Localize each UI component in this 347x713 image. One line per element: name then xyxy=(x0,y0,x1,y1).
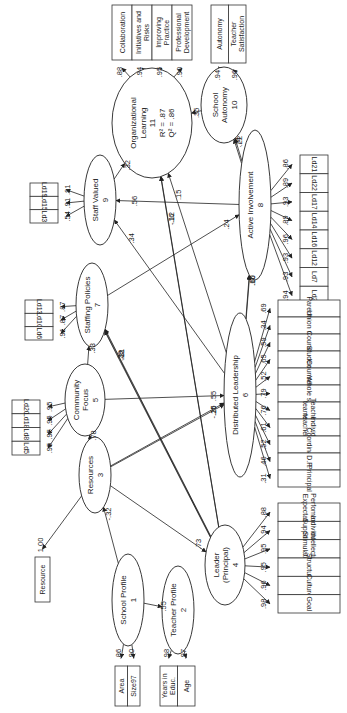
indicator-label: Ld3 xyxy=(41,210,48,222)
indicator-label: ImprovingPractice xyxy=(155,17,170,48)
path-coefficient: -.32 xyxy=(104,507,113,520)
loading-value: .34 xyxy=(259,320,268,330)
indicator-group: Ld21Ld22Ld17Ld14Ld16Ld12Ld7Ld2 xyxy=(300,155,328,305)
loading-value: .79 xyxy=(259,388,268,398)
path-arrow xyxy=(110,486,206,552)
loading-value: .95 xyxy=(259,544,268,554)
path-coefficient: .55 xyxy=(209,391,218,401)
path-coefficient: -.16 xyxy=(209,406,218,419)
latent-staff-valued: Staff Valued9 xyxy=(84,155,116,245)
latent-school-profile: School Profile1 xyxy=(112,554,144,646)
loading-value: .52 xyxy=(259,371,268,381)
indicator-label: Ld18 xyxy=(23,413,30,429)
indicator-group: CollaborationInitiatives andRisksImprovi… xyxy=(112,5,192,60)
indicator-label: Ld15 xyxy=(41,195,48,211)
loading-value: .95 xyxy=(259,562,268,572)
latent-staffing-policies: Staffing Policies7 xyxy=(76,263,108,347)
latent-school-autonomy: SchoolAutonomy10 xyxy=(201,67,247,143)
loading-value: .59 xyxy=(259,337,268,347)
loading-arrow xyxy=(255,427,270,478)
indicator-label: Ld8 xyxy=(23,429,30,441)
loading-value: .94 xyxy=(213,70,222,80)
indicator-group: Ld13Ld10Ld6 xyxy=(25,299,53,340)
path-arrow xyxy=(105,396,224,400)
indicator-label: Ld17 xyxy=(311,194,318,210)
loading-value: .89 xyxy=(281,178,290,188)
indicator-group: Years inEduc.Age xyxy=(160,666,195,706)
path-coefficient: .24 xyxy=(222,219,231,229)
loading-value: .91 xyxy=(63,184,72,194)
indicator-label: Age xyxy=(183,680,191,693)
path-coefficient: .16 xyxy=(248,276,257,286)
loading-value: .87 xyxy=(58,301,67,311)
indicator-group: PerfomanceExpectationIndividualSupportIn… xyxy=(278,493,340,613)
loading-value: .61 xyxy=(259,422,268,432)
path-coefficient: .73 xyxy=(194,539,203,549)
loading-value: .87 xyxy=(58,315,67,325)
path-coefficient: .35 xyxy=(192,108,201,118)
loading-value: .31 xyxy=(259,473,268,483)
loading-value: .97 xyxy=(179,649,188,659)
path-arrow xyxy=(161,177,219,527)
indicator-label: ProfessionalDevelopment xyxy=(175,12,191,53)
loading-value: .98 xyxy=(259,599,268,609)
loading-value: .91 xyxy=(63,198,72,208)
path-coefficient: .78 xyxy=(89,430,98,440)
loading-arrow xyxy=(255,309,270,362)
loading-value: .95 xyxy=(45,443,54,453)
indicator-label: Ld22 xyxy=(311,175,318,191)
loading-value: .93 xyxy=(281,272,290,282)
loading-value: .91 xyxy=(58,328,67,338)
loading-value: .89 xyxy=(281,215,290,225)
indicator-label: Years inEduc. xyxy=(161,673,176,698)
loading-value: .98 xyxy=(162,649,171,659)
latent-resources: Resources3 xyxy=(79,437,111,513)
indicator-group: Resource xyxy=(35,557,50,602)
indicator-label: Culture xyxy=(306,574,313,597)
indicator-label: Resource xyxy=(39,564,46,594)
loading-value: .94 xyxy=(281,290,290,300)
indicator-label: Goal xyxy=(306,596,313,611)
loading-value: .93 xyxy=(281,253,290,263)
loading-value: .86 xyxy=(114,649,123,659)
indicator-label: Collaboration xyxy=(119,12,126,53)
indicator-label: Size97 xyxy=(130,675,137,697)
latent-leader-principal: Leader(Principal)4 xyxy=(205,525,245,605)
indicator-label: Ld5 xyxy=(23,442,30,454)
indicator-label: Ld16 xyxy=(311,232,318,248)
loading-value: .94 xyxy=(135,67,144,77)
indicator-label: Principal xyxy=(305,465,313,492)
loading-value: .54 xyxy=(63,211,72,221)
loading-value: .96 xyxy=(281,234,290,244)
latent-active-involvement: Active Involvement8 xyxy=(239,130,271,280)
loading-value: .95 xyxy=(155,67,164,77)
indicator-label: Ld7 xyxy=(311,271,318,283)
loading-value: .76 xyxy=(259,405,268,415)
indicator-group: AutonomyTeacherSatisfaction xyxy=(211,5,246,63)
loading-value: .96 xyxy=(259,580,268,590)
loading-value: .86 xyxy=(281,159,290,169)
path-coefficient: .55 xyxy=(159,601,168,611)
path-coefficient: .16 xyxy=(167,214,176,224)
indicator-label: Autonomy xyxy=(216,18,224,50)
loading-value: .88 xyxy=(115,67,124,77)
loading-value: .95 xyxy=(45,402,54,412)
indicator-label: Ld21 xyxy=(311,157,318,173)
indicator-label: Area xyxy=(118,679,125,694)
loading-value: 1.00 xyxy=(36,538,45,553)
loading-value: .90 xyxy=(127,649,136,659)
loading-arrow xyxy=(43,496,82,549)
loading-value: .94 xyxy=(259,525,268,535)
path-coefficient: .74 xyxy=(234,137,243,147)
loading-value: .46 xyxy=(259,456,268,466)
latent-community-focus: CommunityFocus5 xyxy=(65,364,105,436)
loading-value: .52 xyxy=(259,439,268,449)
loading-value: .88 xyxy=(259,507,268,517)
path-diagram: CollaborationInitiatives andRisksImprovi… xyxy=(0,0,347,713)
path-coefficient: .15 xyxy=(174,190,183,200)
path-coefficient: .32 xyxy=(123,160,132,170)
indicator-group: Ld19Ld15Ld3 xyxy=(30,182,58,223)
path-coefficient: .29 xyxy=(116,351,125,361)
indicator-label: Ld12 xyxy=(311,250,318,266)
indicator-group: AreaSize97 xyxy=(115,666,140,706)
